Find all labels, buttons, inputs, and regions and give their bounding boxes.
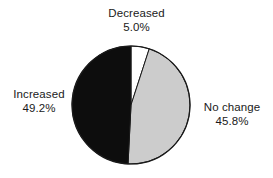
slice-label-no-change: No change 45.8% [192,101,272,128]
slice-label-decreased-name: Decreased [0,7,273,21]
pie-slice-group [72,46,190,164]
pie-chart-figure: Decreased 5.0% Increased 49.2% No change… [0,0,273,178]
slice-label-decreased: Decreased 5.0% [0,7,273,34]
slice-label-increased-value: 49.2% [2,102,76,116]
slice-label-increased: Increased 49.2% [2,88,76,115]
slice-label-decreased-value: 5.0% [0,21,273,35]
slice-label-no-change-name: No change [192,101,272,115]
slice-label-no-change-value: 45.8% [192,115,272,129]
slice-label-increased-name: Increased [2,88,76,102]
pie-slice-increased [72,46,131,164]
